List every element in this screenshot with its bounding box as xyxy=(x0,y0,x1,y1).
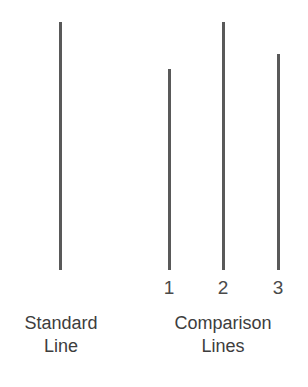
comparison-caption-line2: Lines xyxy=(156,335,290,358)
comparison-group-caption: Comparison Lines xyxy=(156,312,290,358)
comparison-line-3 xyxy=(277,54,280,270)
standard-group-caption: Standard Line xyxy=(0,312,122,358)
standard-caption-line2: Line xyxy=(0,335,122,358)
comparison-line-2 xyxy=(222,22,225,270)
standard-caption-line1: Standard xyxy=(0,312,122,335)
comparison-line-label-1: 1 xyxy=(154,278,184,297)
comparison-caption-line1: Comparison xyxy=(156,312,290,335)
line-judgment-figure: 1 2 3 Standard Line Comparison Lines xyxy=(0,0,308,387)
comparison-line-label-3: 3 xyxy=(263,278,293,297)
standard-line xyxy=(59,22,62,270)
comparison-line-label-2: 2 xyxy=(208,278,238,297)
comparison-line-1 xyxy=(168,69,171,270)
